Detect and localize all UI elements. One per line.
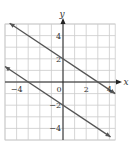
y-tick-label: −2 [49, 101, 61, 110]
x-axis-arrow-icon [116, 80, 122, 85]
y-axis-label: y [58, 9, 65, 19]
y-tick-label: 4 [56, 32, 61, 41]
x-tick-label: 0 [56, 85, 61, 94]
coordinate-plane-chart: −402442−2−4xy [0, 0, 138, 157]
line-series-1 [10, 23, 116, 93]
x-tick-label: 2 [84, 85, 89, 94]
x-tick-label: −4 [11, 85, 23, 94]
y-tick-label: −4 [49, 124, 61, 133]
y-tick-label: 2 [56, 55, 61, 64]
x-tick-label: 4 [107, 85, 112, 94]
x-axis-label: x [123, 77, 128, 87]
